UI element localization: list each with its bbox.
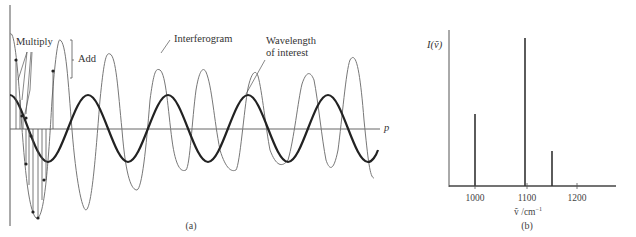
wavenumber-unit: ṽ /cm <box>514 207 535 217</box>
p-axis-label: p <box>384 122 389 134</box>
caption-b: (b) <box>521 220 533 231</box>
intensity-axis-label: I(ṽ) <box>427 39 442 51</box>
wavenumber-exp: −1 <box>535 206 541 212</box>
wavenumber-axis-label: ṽ /cm−1 <box>514 206 542 217</box>
sample-dots <box>14 58 54 219</box>
spectrum-peaks <box>475 38 552 186</box>
caption-a: (a) <box>185 220 196 231</box>
tick-1100: 1100 <box>518 193 537 203</box>
tick-1200: 1200 <box>568 193 587 203</box>
interferogram-leader <box>161 40 170 53</box>
multiply-label: Multiply <box>16 36 53 48</box>
wavelength-label-line1: Wavelength <box>266 35 316 47</box>
interferogram-label: Interferogram <box>174 33 232 45</box>
figure-canvas <box>0 0 636 237</box>
tick-1000: 1000 <box>466 193 485 203</box>
add-bracket <box>70 40 74 78</box>
wavelength-label-line2: of interest <box>266 47 308 59</box>
add-label: Add <box>78 53 96 65</box>
multiply-sample-lines <box>16 60 53 218</box>
interferogram-curve <box>10 34 374 219</box>
wavelength-leader <box>246 60 265 94</box>
